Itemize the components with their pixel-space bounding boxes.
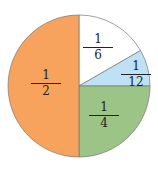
denominator: 4 xyxy=(100,116,108,130)
numerator: 1 xyxy=(94,32,102,46)
numerator: 1 xyxy=(100,100,108,114)
label-one-half: 1 2 xyxy=(31,69,61,98)
label-one-sixth: 1 6 xyxy=(83,33,113,62)
denominator: 12 xyxy=(128,75,143,89)
denominator: 2 xyxy=(42,84,50,98)
numerator: 1 xyxy=(132,59,140,73)
label-one-twelfth: 1 12 xyxy=(121,60,151,89)
label-one-quarter: 1 4 xyxy=(89,101,119,130)
numerator: 1 xyxy=(42,68,50,82)
denominator: 6 xyxy=(94,48,102,62)
